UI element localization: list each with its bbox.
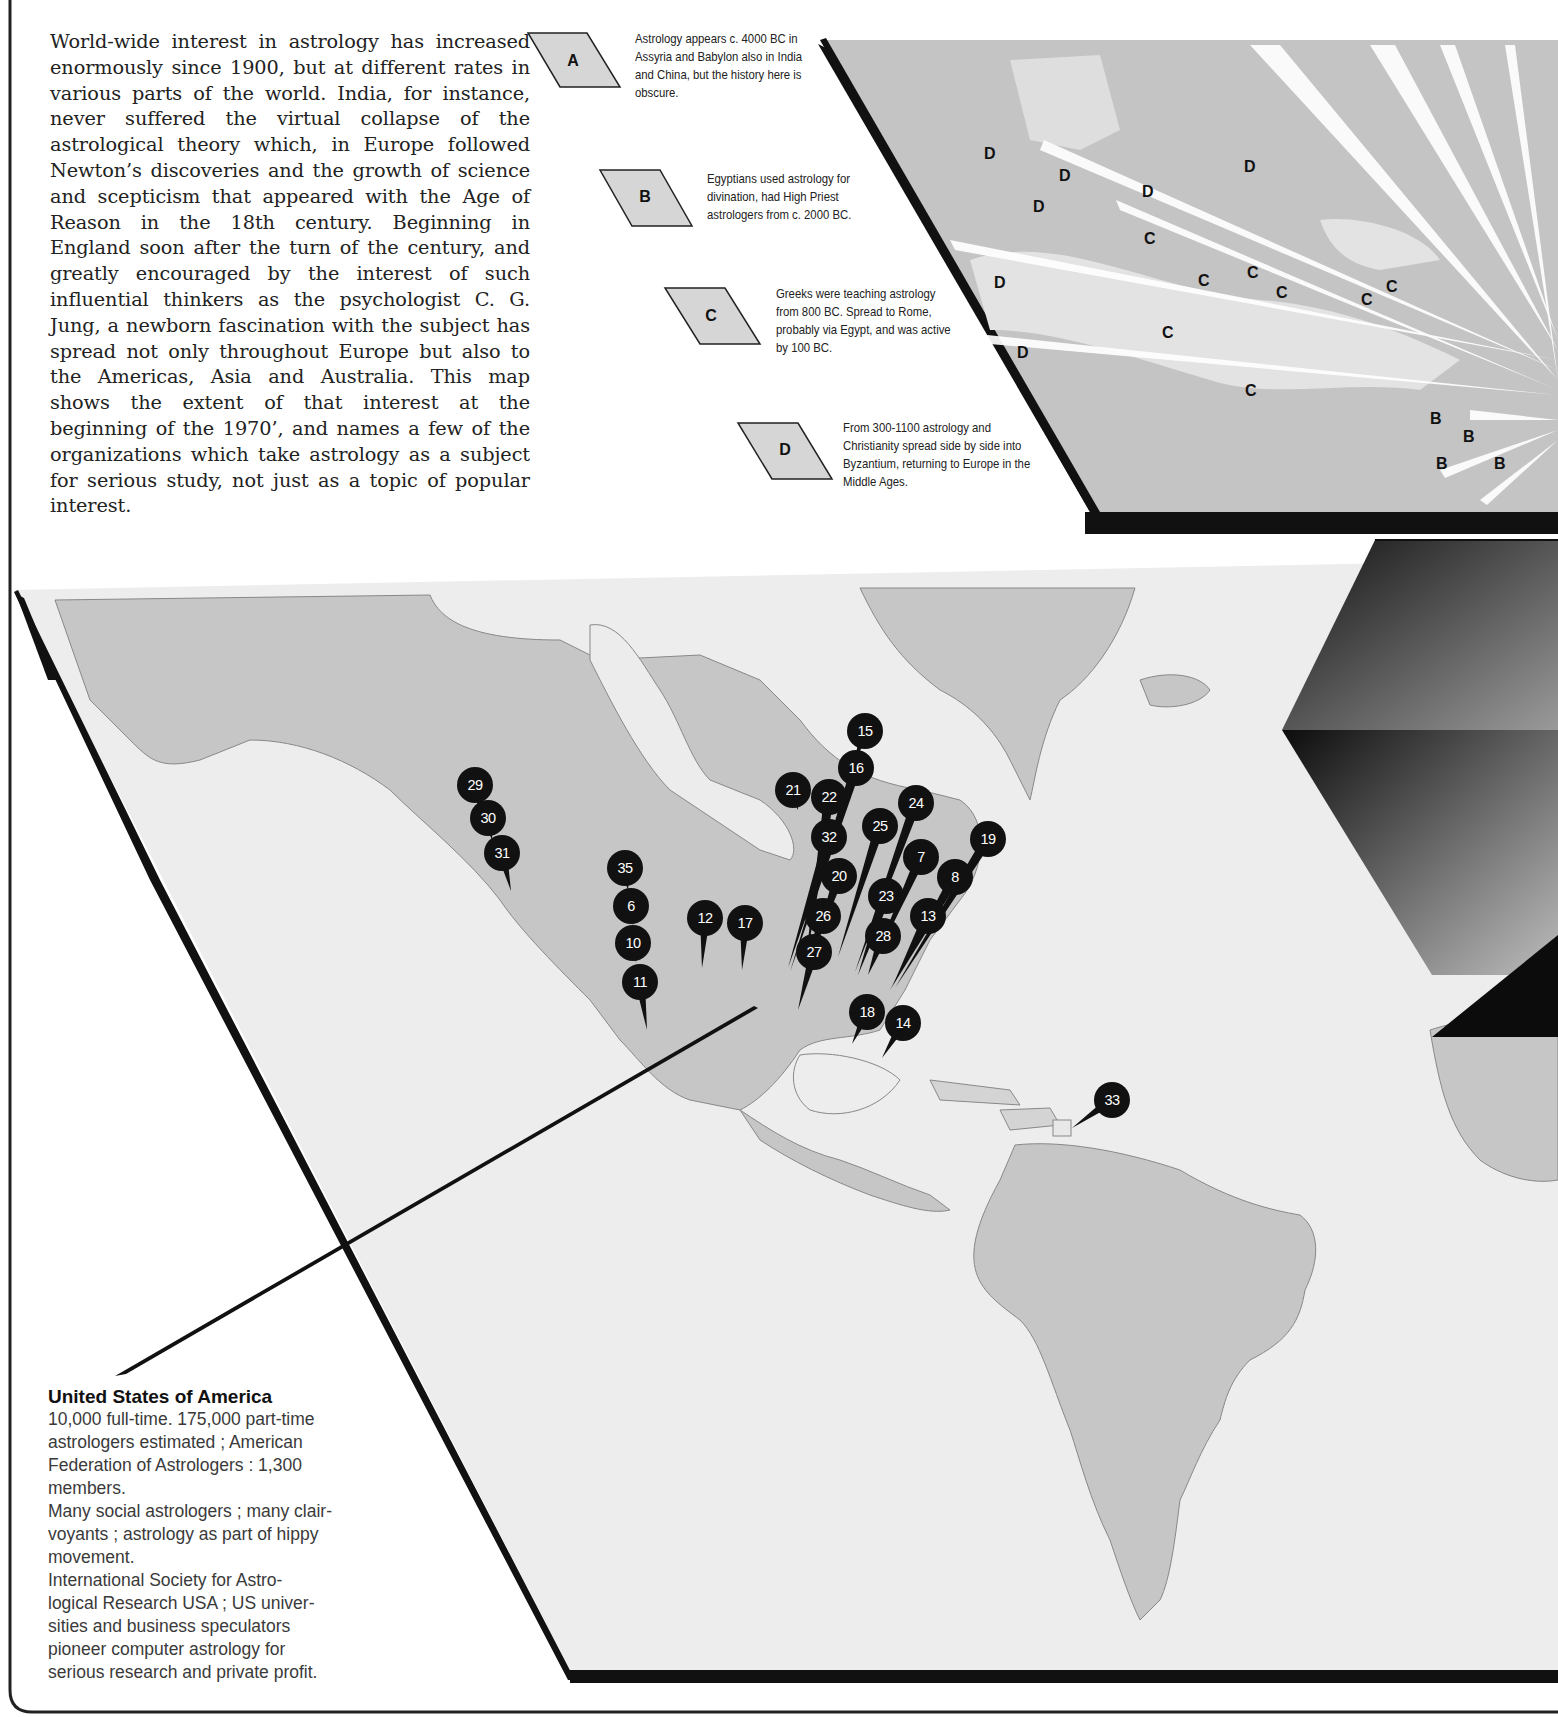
map-page: World-wide interest in astrology has inc…	[0, 0, 1558, 1717]
era-marker-c: C	[1162, 324, 1174, 342]
era-marker-b: B	[1430, 410, 1442, 428]
intro-paragraph: World-wide interest in astrology has inc…	[50, 29, 530, 519]
pin-number: 12	[687, 900, 723, 936]
pin-number: 30	[470, 800, 506, 836]
pin-number: 11	[622, 964, 658, 1000]
pin-number: 16	[838, 750, 874, 786]
era-marker-c: C	[1198, 272, 1210, 290]
pin-number: 22	[811, 779, 847, 815]
pin-number: 31	[484, 835, 520, 871]
usa-info-panel: United States of America 10,000 full-tim…	[48, 1386, 438, 1684]
pin-number: 33	[1094, 1082, 1130, 1118]
pin-number: 15	[847, 713, 883, 749]
era-marker-b: B	[1494, 455, 1506, 473]
pin-number: 23	[868, 878, 904, 914]
key-text-d: From 300-1100 astrology and Christianity…	[843, 419, 1041, 491]
era-marker-b: B	[1436, 455, 1448, 473]
pin-number: 35	[607, 850, 643, 886]
usa-line: 10,000 full-time. 175,000 part-time	[48, 1408, 438, 1431]
era-marker-c: C	[1361, 291, 1373, 309]
usa-line: pioneer computer astrology for	[48, 1638, 438, 1661]
era-marker-b: B	[1463, 428, 1475, 446]
pin-number: 14	[885, 1005, 921, 1041]
usa-line: Federation of Astrologers : 1,300	[48, 1454, 438, 1477]
key-text-b: Egyptians used astrology for divination,…	[707, 170, 879, 224]
pin-number: 26	[805, 898, 841, 934]
pin-number: 20	[821, 858, 857, 894]
pin-number: 18	[849, 994, 885, 1030]
key-letter-b: B	[630, 188, 660, 206]
key-letter-d: D	[770, 441, 800, 459]
pin-number: 25	[862, 808, 898, 844]
pin-number: 7	[903, 839, 939, 875]
pin-number: 19	[970, 821, 1006, 857]
era-marker-c: C	[1247, 264, 1259, 282]
pin-number: 24	[898, 785, 934, 821]
era-marker-d: D	[984, 145, 996, 163]
usa-line: astrologers estimated ; American	[48, 1431, 438, 1454]
era-marker-d: D	[1142, 183, 1154, 201]
pin-number: 8	[937, 859, 973, 895]
key-letter-c: C	[696, 307, 726, 325]
pin-number: 29	[457, 767, 493, 803]
usa-line: International Society for Astro-	[48, 1569, 438, 1592]
era-marker-c: C	[1144, 230, 1156, 248]
usa-line: movement.	[48, 1546, 438, 1569]
pin-number: 27	[796, 934, 832, 970]
era-marker-d: D	[1059, 167, 1071, 185]
key-text-a: Astrology appears c. 4000 BC in Assyria …	[635, 30, 816, 102]
usa-line: logical Research USA ; US univer-	[48, 1592, 438, 1615]
key-letter-a: A	[558, 52, 588, 70]
pin-number: 21	[775, 772, 811, 808]
usa-line: sities and business speculators	[48, 1615, 438, 1638]
usa-line: Many social astrologers ; many clair-	[48, 1500, 438, 1523]
usa-line: voyants ; astrology as part of hippy	[48, 1523, 438, 1546]
era-marker-d: D	[1017, 344, 1029, 362]
usa-line: serious research and private profit.	[48, 1661, 438, 1684]
pin-number: 32	[811, 819, 847, 855]
era-marker-c: C	[1276, 284, 1288, 302]
usa-line: members.	[48, 1477, 438, 1500]
usa-title: United States of America	[48, 1386, 438, 1408]
pin-number: 13	[910, 898, 946, 934]
pin-number: 10	[615, 925, 651, 961]
pin-number: 6	[613, 888, 649, 924]
era-marker-d: D	[994, 274, 1006, 292]
era-marker-c: C	[1245, 382, 1257, 400]
era-marker-c: C	[1386, 278, 1398, 296]
pin-number: 17	[727, 905, 763, 941]
key-text-c: Greeks were teaching astrology from 800 …	[776, 285, 952, 357]
era-marker-d: D	[1033, 198, 1045, 216]
era-marker-d: D	[1244, 158, 1256, 176]
pin-number: 28	[865, 918, 901, 954]
